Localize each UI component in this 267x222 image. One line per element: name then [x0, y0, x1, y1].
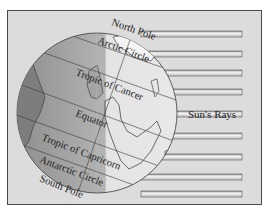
diagram-frame: North Pole Arctic Circle Tropic of Cance…	[7, 10, 262, 205]
label-suns-rays: Sun's Rays	[188, 108, 236, 120]
